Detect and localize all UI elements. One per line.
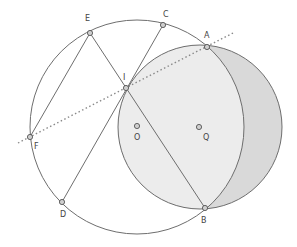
- point-label: F: [34, 142, 39, 151]
- point-marker[interactable]: [59, 199, 64, 204]
- point-marker[interactable]: [134, 123, 139, 128]
- point-marker[interactable]: [196, 124, 201, 129]
- point-label: B: [201, 216, 207, 225]
- geometry-diagram: ABCDEFIOQ: [0, 0, 297, 247]
- point-label: C: [163, 10, 169, 19]
- point-I[interactable]: I: [123, 73, 129, 91]
- point-marker[interactable]: [87, 30, 92, 35]
- point-label: D: [60, 210, 66, 219]
- point-label: O: [134, 133, 140, 142]
- point-label: E: [85, 14, 90, 23]
- point-A[interactable]: A: [204, 31, 210, 50]
- point-F[interactable]: F: [27, 134, 39, 151]
- point-marker[interactable]: [160, 22, 165, 27]
- point-marker[interactable]: [27, 134, 32, 139]
- point-label: A: [204, 31, 210, 40]
- point-D[interactable]: D: [59, 199, 66, 219]
- point-B[interactable]: B: [201, 205, 208, 225]
- point-label: I: [123, 73, 125, 82]
- point-label: Q: [203, 133, 209, 142]
- point-marker[interactable]: [204, 44, 209, 49]
- point-marker[interactable]: [123, 85, 128, 90]
- diagram-svg: ABCDEFIOQ: [0, 0, 297, 247]
- point-marker[interactable]: [202, 205, 207, 210]
- point-O[interactable]: O: [134, 123, 140, 142]
